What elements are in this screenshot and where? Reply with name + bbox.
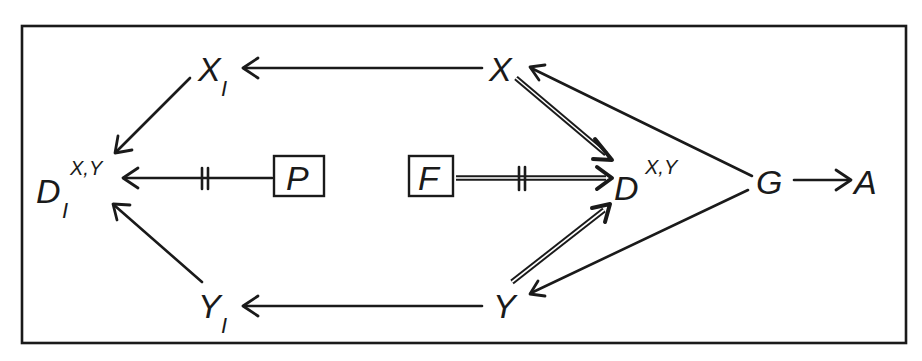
- node-label: A: [852, 163, 877, 201]
- node-label: X: [197, 50, 222, 88]
- node-subscript: I: [221, 313, 227, 338]
- node-subscript: I: [62, 198, 68, 223]
- edge-y-to-yi: [243, 296, 482, 316]
- edge-f-to-d: [456, 167, 612, 190]
- edge-yi-to-di: [113, 204, 202, 282]
- node-superscript: X,Y: [69, 157, 104, 179]
- node-subscript: I: [221, 76, 227, 101]
- node-label: X: [488, 50, 513, 88]
- node-label: D: [614, 169, 639, 207]
- node-a: A: [852, 163, 877, 201]
- node-f: F: [409, 156, 453, 197]
- node-y-i: Y I: [198, 287, 227, 338]
- node-d-i: D X,Y I: [36, 157, 104, 223]
- node-x: X: [488, 50, 513, 88]
- edge-x-to-xi: [243, 58, 482, 78]
- edge-x-to-d: [516, 78, 612, 160]
- node-label: P: [286, 159, 309, 197]
- edge-p-to-di: [123, 168, 272, 189]
- edge-g-to-a: [794, 170, 851, 190]
- node-p: P: [274, 156, 324, 197]
- node-g: G: [756, 163, 782, 201]
- node-label: F: [418, 159, 441, 197]
- causal-diagram: X I X D X,Y I P F D X,Y G A Y I Y: [0, 0, 922, 361]
- node-label: Y: [493, 287, 518, 325]
- edge-y-to-d: [512, 204, 610, 282]
- node-y: Y: [493, 287, 518, 325]
- node-d: D X,Y: [614, 156, 679, 207]
- node-label: D: [36, 172, 61, 210]
- node-label: Y: [198, 287, 223, 325]
- edge-xi-to-di: [115, 78, 190, 153]
- node-x-i: X I: [197, 50, 227, 101]
- node-label: G: [756, 163, 782, 201]
- node-superscript: X,Y: [644, 156, 679, 178]
